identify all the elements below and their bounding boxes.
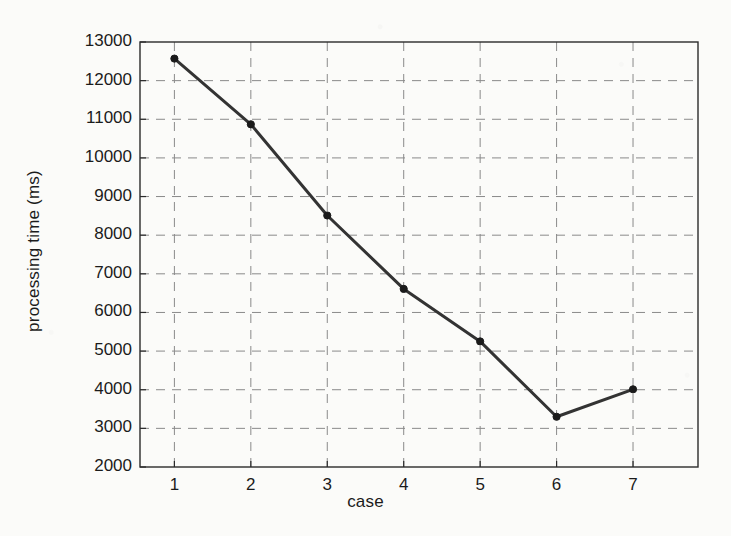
axes-frame bbox=[140, 42, 698, 467]
axes-border bbox=[140, 42, 698, 467]
chart-page: 2000300040005000600070008000900010000110… bbox=[0, 0, 731, 536]
data-point-marker bbox=[553, 413, 560, 420]
data-point-marker bbox=[171, 55, 178, 62]
y-tick-label: 8000 bbox=[52, 224, 132, 244]
y-tick-label: 13000 bbox=[52, 31, 132, 51]
data-point-marker bbox=[477, 338, 484, 345]
data-point-marker bbox=[247, 121, 254, 128]
x-axis-title: case bbox=[0, 492, 731, 512]
gridlines bbox=[140, 42, 698, 467]
data-point-marker bbox=[324, 212, 331, 219]
data-point-marker bbox=[400, 285, 407, 292]
axis-ticks bbox=[140, 42, 633, 467]
y-tick-label: 4000 bbox=[52, 379, 132, 399]
y-tick-label: 2000 bbox=[52, 456, 132, 476]
y-tick-label: 9000 bbox=[52, 186, 132, 206]
y-tick-label: 6000 bbox=[52, 301, 132, 321]
y-tick-label: 3000 bbox=[52, 417, 132, 437]
y-tick-label: 11000 bbox=[52, 108, 132, 128]
y-tick-label: 7000 bbox=[52, 263, 132, 283]
y-tick-label: 5000 bbox=[52, 340, 132, 360]
data-point-marker bbox=[629, 386, 636, 393]
y-tick-label: 10000 bbox=[52, 147, 132, 167]
y-tick-label: 12000 bbox=[52, 70, 132, 90]
y-axis-title: processing time (ms) bbox=[24, 141, 44, 361]
